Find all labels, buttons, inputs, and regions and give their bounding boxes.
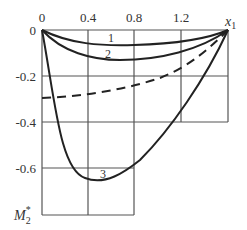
curve-label-2: 2 — [105, 47, 111, 61]
x-tick-1.2: 1.2 — [173, 10, 189, 25]
y-axis-label: M2* — [13, 204, 31, 226]
x-tick-0.8: 0.8 — [126, 10, 142, 25]
x-tick-0: 0 — [39, 10, 46, 25]
y-tick-labels: 0 -0.2 -0.4 -0.6 — [15, 23, 36, 176]
x-tick-0.4: 0.4 — [80, 10, 97, 25]
y-tick-0: 0 — [30, 23, 37, 38]
x-axis-label: x1 — [224, 14, 236, 31]
curves — [42, 30, 228, 180]
curve-3 — [42, 30, 228, 180]
x-tick-labels: 0 0.4 0.8 1.2 — [39, 10, 189, 25]
y-tick-minus-0.2: -0.2 — [15, 69, 36, 84]
grid — [42, 30, 228, 215]
curve-1 — [42, 30, 228, 45]
curve-label-1: 1 — [108, 31, 114, 45]
y-tick-minus-0.6: -0.6 — [15, 161, 36, 176]
curve-label-3: 3 — [100, 167, 106, 181]
chart: 0 0.4 0.8 1.2 0 -0.2 -0.4 -0.6 x1 M2* 1 … — [0, 0, 247, 230]
y-tick-minus-0.4: -0.4 — [15, 115, 36, 130]
